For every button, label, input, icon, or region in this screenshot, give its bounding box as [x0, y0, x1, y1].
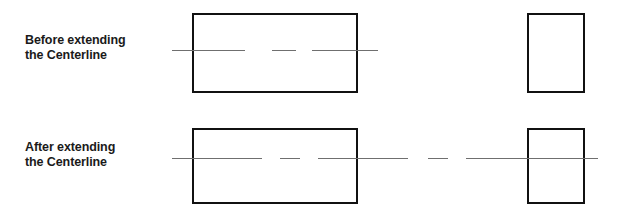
after-large-rectangle [192, 128, 358, 204]
before-centerline-dash-3 [312, 50, 378, 51]
after-small-square [527, 128, 585, 204]
before-centerline-dash-2 [272, 50, 296, 51]
centerline-diagram: Before extending the Centerline After ex… [0, 0, 625, 219]
row-label-before: Before extending the Centerline [25, 33, 165, 63]
row-label-after: After extending the Centerline [25, 140, 165, 170]
before-large-rectangle [192, 13, 358, 93]
after-centerline-dash-1 [172, 158, 262, 159]
after-centerline-dash-2 [280, 158, 300, 159]
after-centerline-dash-4 [428, 158, 448, 159]
after-centerline-dash-5 [466, 158, 598, 159]
before-centerline-dash-1 [172, 50, 245, 51]
after-centerline-dash-3 [318, 158, 408, 159]
before-small-square [527, 13, 585, 93]
